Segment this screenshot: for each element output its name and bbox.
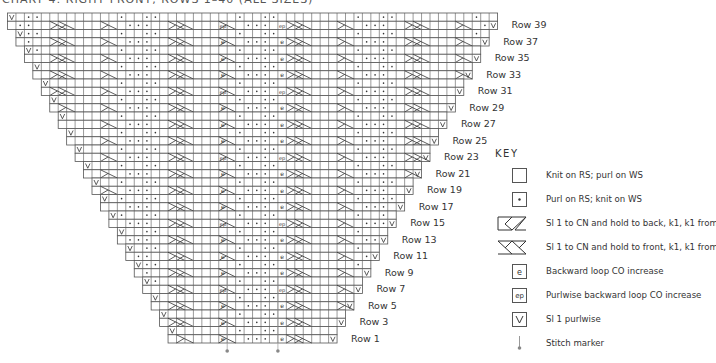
cable-back-icon	[495, 216, 545, 232]
svg-text:e: e	[280, 121, 284, 128]
knit-box-icon	[495, 168, 545, 184]
row-label: Row 5	[368, 300, 397, 311]
svg-text:e: e	[280, 170, 284, 177]
row-label: Row 35	[495, 52, 530, 63]
svg-text:e: e	[280, 236, 284, 243]
svg-text:e: e	[280, 137, 284, 144]
knitting-chart: epepeeeeeeepepeeeeeeepepeeeeeeepepeeeeee…	[0, 0, 500, 363]
svg-text:e: e	[221, 137, 225, 144]
svg-text:e: e	[280, 269, 284, 276]
svg-text:ep: ep	[279, 155, 285, 162]
svg-text:e: e	[221, 38, 225, 45]
row-label: Row 25	[452, 135, 487, 146]
svg-text:e: e	[280, 302, 284, 309]
key-heading: Key	[495, 148, 518, 159]
svg-text:ep: ep	[279, 23, 285, 30]
key-item-backward-loop: e Backward loop CO increase	[495, 264, 715, 280]
svg-text:e: e	[517, 268, 522, 277]
svg-text:e: e	[280, 71, 284, 78]
row-label: Row 3	[360, 316, 389, 327]
row-label: Row 21	[436, 168, 471, 179]
svg-text:e: e	[221, 335, 225, 342]
svg-text:e: e	[221, 302, 225, 309]
row-label: Row 11	[393, 250, 428, 261]
key-item-slip: Sl 1 purlwise	[495, 312, 715, 328]
row-label: Row 37	[503, 36, 538, 47]
svg-text:ep: ep	[220, 221, 226, 228]
row-label: Row 31	[478, 85, 513, 96]
row-label: Row 39	[512, 19, 547, 30]
svg-text:e: e	[280, 253, 284, 260]
slip-v-icon	[495, 312, 545, 328]
backward-loop-e-icon: e	[495, 264, 545, 280]
svg-text:ep: ep	[279, 221, 285, 228]
row-label: Row 17	[419, 201, 454, 212]
svg-text:e: e	[221, 104, 225, 111]
svg-text:e: e	[280, 203, 284, 210]
svg-text:ep: ep	[220, 23, 226, 30]
svg-text:e: e	[221, 236, 225, 243]
svg-text:e: e	[221, 253, 225, 260]
row-label: Row 13	[402, 234, 437, 245]
key-item-purlwise-loop: ep Purlwise backward loop CO increase	[495, 288, 715, 304]
stitch-marker-icon	[495, 336, 545, 352]
svg-text:e: e	[221, 203, 225, 210]
svg-text:e: e	[280, 55, 284, 62]
svg-text:e: e	[280, 187, 284, 194]
svg-text:e: e	[280, 104, 284, 111]
svg-text:e: e	[221, 319, 225, 326]
svg-text:e: e	[221, 187, 225, 194]
svg-text:e: e	[221, 170, 225, 177]
svg-text:ep: ep	[279, 89, 285, 96]
svg-text:e: e	[221, 121, 225, 128]
row-label: Row 27	[461, 118, 496, 129]
key-item-knit: Knit on RS; purl on WS	[495, 168, 715, 184]
key-item-purl: Purl on RS; knit on WS	[495, 192, 715, 208]
svg-text:e: e	[280, 319, 284, 326]
row-label: Row 7	[376, 283, 405, 294]
svg-text:e: e	[221, 55, 225, 62]
key-item-cable-back: Sl 1 to CN and hold to back, k1, k1 from…	[495, 216, 715, 232]
svg-text:ep: ep	[515, 292, 524, 300]
svg-text:e: e	[221, 71, 225, 78]
svg-text:e: e	[280, 335, 284, 342]
key-item-stitch-marker: Stitch marker	[495, 336, 715, 352]
row-label: Row 29	[469, 102, 504, 113]
svg-text:ep: ep	[220, 89, 226, 96]
svg-text:ep: ep	[279, 287, 285, 294]
row-label: Row 19	[427, 184, 462, 195]
key-item-cable-front: Sl 1 to CN and hold to front, k1, k1 fro…	[495, 240, 715, 256]
row-label: Row 23	[444, 151, 479, 162]
row-label: Row 9	[385, 267, 414, 278]
svg-text:ep: ep	[220, 155, 226, 162]
svg-text:e: e	[221, 269, 225, 276]
purl-dot-icon	[495, 192, 545, 208]
cable-front-icon	[495, 240, 545, 256]
svg-text:e: e	[280, 38, 284, 45]
row-label: Row 33	[486, 69, 521, 80]
purlwise-loop-ep-icon: ep	[495, 288, 545, 304]
row-label: Row 15	[410, 217, 445, 228]
svg-text:ep: ep	[220, 287, 226, 294]
row-label: Row 1	[351, 333, 380, 344]
